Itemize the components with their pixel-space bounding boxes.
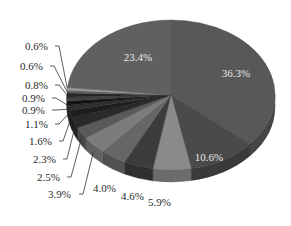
pie-chart: 36.3%10.6%23.4%5.9%4.6%4.0%3.9%2.5%2.3%1…	[0, 0, 291, 226]
slice-label: 36.3%	[222, 67, 250, 79]
slice-label: 2.3%	[33, 153, 56, 165]
pie-slice	[68, 20, 171, 95]
slice-label: 0.6%	[20, 60, 43, 72]
slice-label: 1.6%	[29, 135, 52, 147]
pie-chart-svg: 36.3%10.6%23.4%5.9%4.6%4.0%3.9%2.5%2.3%1…	[0, 0, 291, 226]
slice-label: 1.1%	[25, 118, 48, 130]
leader-line	[52, 98, 67, 105]
slice-label: 5.9%	[148, 196, 171, 208]
slice-label: 0.6%	[25, 40, 48, 52]
slice-label: 0.8%	[25, 79, 48, 91]
slice-label: 23.4%	[124, 51, 152, 63]
leader-line	[55, 85, 67, 95]
slice-label: 0.9%	[22, 92, 45, 104]
leader-line	[52, 109, 68, 110]
leader-line	[63, 129, 74, 159]
slice-label: 10.6%	[195, 151, 223, 163]
slice-label: 3.9%	[48, 188, 71, 200]
slice-label: 4.0%	[93, 182, 116, 194]
slice-label: 0.9%	[22, 104, 45, 116]
leader-line	[50, 66, 67, 92]
leader-line	[67, 139, 81, 177]
slice-label: 2.5%	[37, 171, 60, 183]
leader-line	[59, 120, 70, 141]
slice-label: 4.6%	[121, 190, 144, 202]
leader-line	[79, 151, 94, 194]
leader-line	[55, 46, 67, 89]
leader-line	[55, 114, 69, 124]
pie-slice-side	[153, 169, 191, 182]
pie-slices	[67, 20, 275, 170]
